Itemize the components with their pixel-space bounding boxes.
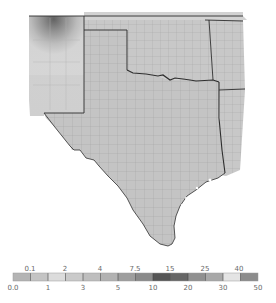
legend-label: 15 [166, 265, 175, 273]
legend-label: 4 [98, 265, 103, 273]
legend-label: 5 [116, 284, 120, 292]
legend-label: 50 [254, 284, 263, 292]
legend-label: 3 [81, 284, 85, 292]
legend-label: 1 [46, 284, 50, 292]
legend-label: 40 [235, 265, 244, 273]
legend-label: 7.5 [129, 265, 140, 273]
legend-label: 10 [149, 284, 158, 292]
legend-lower-labels: 0.0 1 3 5 10 20 30 50 [7, 284, 262, 292]
legend-label: 2 [63, 265, 67, 273]
legend-label: 25 [201, 265, 210, 273]
legend-upper-labels: 0.1 2 4 7.5 15 25 40 [24, 265, 243, 273]
new-mexico [29, 16, 84, 116]
legend-label: 20 [184, 284, 193, 292]
legend-swatches [13, 273, 258, 281]
legend: 0.1 2 4 7.5 15 25 40 [0, 262, 276, 303]
legend-label: 30 [219, 284, 228, 292]
precipitation-map [0, 0, 276, 262]
legend-label: 0.1 [24, 265, 35, 273]
legend-label: 0.0 [7, 284, 18, 292]
